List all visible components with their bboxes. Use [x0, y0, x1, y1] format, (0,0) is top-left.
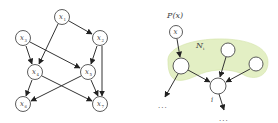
edge-i-to-ellipsis	[219, 94, 224, 110]
node-x5-label: x	[85, 68, 89, 76]
node-x6: x 6	[16, 97, 31, 112]
left-bayesian-network: x 1 x 2 x 3 x 4 x 5 x 6 x	[16, 10, 108, 112]
edge-x3-x5	[30, 42, 80, 68]
node-x1-sub: 1	[64, 17, 67, 22]
prior-label: P(x)	[166, 11, 183, 20]
node-x-label: x	[174, 28, 178, 36]
target-node-label: i	[211, 96, 213, 104]
node-target-i	[210, 78, 226, 94]
node-neighbor-b	[221, 43, 235, 57]
right-neighborhood-diagram: P(x) x N i i ... ...	[158, 11, 268, 123]
edge-a-to-ellipsis	[165, 74, 178, 97]
edge-x3-x4	[26, 46, 32, 64]
node-x7: x 7	[93, 97, 108, 112]
edge-x4-x6	[26, 80, 32, 96]
node-x3-label: x	[20, 34, 24, 42]
node-x2: x 2	[93, 31, 108, 46]
node-x2-label: x	[97, 34, 101, 42]
node-x6-label: x	[20, 100, 24, 108]
node-x3: x 3	[16, 31, 31, 46]
node-x4: x 4	[28, 65, 43, 80]
node-x5: x 5	[81, 65, 96, 80]
edge-x2-x5	[91, 46, 97, 64]
edge-x4-x7	[42, 76, 92, 101]
node-x7-label: x	[97, 100, 101, 108]
edge-x1-x2	[69, 21, 92, 34]
node-neighbor-c	[249, 57, 263, 71]
node-x4-label: x	[32, 68, 36, 76]
node-parent-a	[173, 58, 189, 74]
node-x1-label: x	[59, 13, 63, 21]
ellipsis-left: ...	[158, 102, 168, 110]
diagram-canvas: x 1 x 2 x 3 x 4 x 5 x 6 x	[0, 0, 278, 123]
node-x-prior: x	[170, 26, 183, 39]
edge-x5-x6	[31, 76, 81, 101]
ellipsis-bottom: ...	[219, 115, 229, 123]
edge-x5-x7	[91, 80, 98, 96]
edge-x1-x4	[39, 24, 58, 64]
node-x1: x 1	[55, 10, 70, 25]
